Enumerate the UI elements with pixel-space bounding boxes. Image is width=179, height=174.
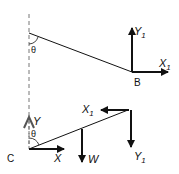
x1-label-top: X1 xyxy=(158,57,171,72)
theta-label-bottom: θ xyxy=(31,129,36,139)
y1-label-top: Y1 xyxy=(134,25,146,40)
rod-bottom xyxy=(29,110,128,149)
rod-top xyxy=(29,33,132,72)
angle-arc-bottom xyxy=(29,138,39,145)
x-label-bottom: X xyxy=(53,152,62,164)
point-c-label: C xyxy=(7,153,14,164)
y1-label-bottom: Y1 xyxy=(134,150,146,165)
free-body-diagram: θ Y1 X1 B θ Y X C W X1 Y1 xyxy=(0,0,179,174)
x1-label-bottom: X1 xyxy=(81,103,94,118)
y-label-bottom: Y xyxy=(33,115,41,127)
angle-arc-top xyxy=(29,37,38,44)
theta-label-top: θ xyxy=(31,45,36,55)
w-label: W xyxy=(88,153,100,165)
point-b-label: B xyxy=(134,77,141,88)
